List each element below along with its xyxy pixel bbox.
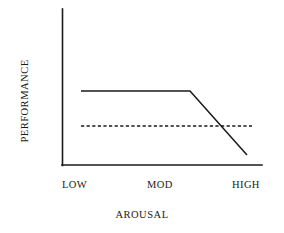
chart-figure: LOW MOD HIGH AROUSAL PERFORMANCE xyxy=(0,0,284,233)
y-axis-title: PERFORMANCE xyxy=(19,59,30,142)
chart-plot-area xyxy=(0,0,284,233)
x-axis-title: AROUSAL xyxy=(0,209,284,220)
x-tick-label-low: LOW xyxy=(62,179,87,191)
x-tick-label-mod: MOD xyxy=(147,179,173,191)
performance-curve xyxy=(81,91,247,155)
x-tick-label-high: HIGH xyxy=(232,179,260,191)
